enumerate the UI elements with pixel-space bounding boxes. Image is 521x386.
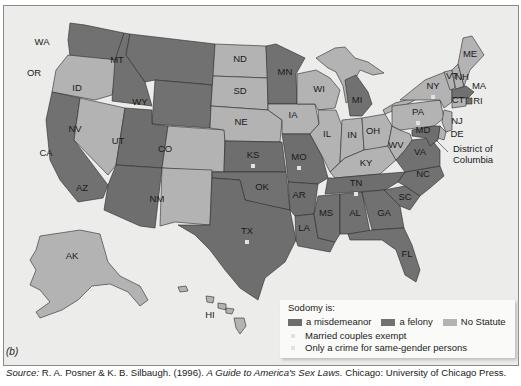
legend: Sodomy is: a misdemeanor a felony No Sta…	[280, 300, 515, 358]
figure-label: (b)	[6, 346, 18, 357]
state-label-AK: AK	[66, 250, 79, 261]
state-MS[interactable]	[314, 194, 340, 242]
state-label-IL: IL	[323, 128, 331, 139]
state-label-MI: MI	[352, 94, 363, 105]
married-exempt-marker-icon	[416, 121, 420, 125]
married-exempt-marker-icon	[431, 95, 435, 99]
state-label-DE: DE	[450, 128, 463, 139]
state-label-NE: NE	[234, 116, 247, 127]
legend-item-misdemeanor: a misdemeanor	[288, 316, 371, 327]
same-gender-only-marker-icon	[354, 192, 358, 196]
hawaii-island-big-island[interactable]	[234, 318, 246, 334]
legend-categories: a misdemeanor a felony No Statute	[288, 316, 506, 327]
state-label-TN: TN	[350, 177, 363, 188]
state-label-AZ: AZ	[76, 182, 88, 193]
state-OR[interactable]	[52, 55, 118, 100]
state-label-OR: OR	[27, 67, 41, 78]
legend-note-same-gender-label: Only a crime for same-gender persons	[305, 342, 467, 353]
state-label-UT: UT	[112, 135, 125, 146]
state-label-PA: PA	[412, 106, 425, 117]
legend-label-no-statute: No Statute	[461, 316, 506, 327]
state-label-MO: MO	[291, 151, 306, 162]
state-label-CA: CA	[39, 147, 53, 158]
state-label-IN: IN	[347, 129, 357, 140]
legend-note-married: Married couples exempt	[288, 330, 406, 341]
state-label-RI: RI	[473, 95, 483, 106]
same-gender-only-marker-icon	[245, 240, 249, 244]
state-label-MA: MA	[472, 80, 487, 91]
legend-note-same-gender: Only a crime for same-gender persons	[288, 342, 467, 353]
state-label-CT: CT	[452, 94, 465, 105]
state-label-IA: IA	[289, 109, 299, 120]
source-citation: Source: R. A. Posner & K. B. Silbaugh. (…	[6, 367, 506, 378]
state-NM[interactable]	[160, 168, 212, 226]
legend-note-married-label: Married couples exempt	[305, 330, 406, 341]
source-publisher: Chicago: University of Chicago Press.	[343, 367, 507, 378]
state-label-GA: GA	[377, 207, 391, 218]
source-authors: R. A. Posner & K. B. Silbaugh. (1996).	[39, 367, 206, 378]
state-label-MD: MD	[416, 124, 431, 135]
state-label-OH: OH	[366, 125, 380, 136]
state-label-MS: MS	[319, 207, 333, 218]
state-label-FL: FL	[401, 248, 412, 259]
legend-label-misdemeanor: a misdemeanor	[306, 316, 371, 327]
legend-item-felony: a felony	[381, 316, 432, 327]
hawaii-island-molokai	[218, 303, 226, 310]
misdemeanor-swatch	[288, 319, 302, 326]
state-label-AL: AL	[349, 207, 361, 218]
state-label-MN: MN	[278, 66, 293, 77]
state-label-MT: MT	[110, 54, 124, 65]
state-label-NC: NC	[416, 168, 430, 179]
state-label-WY: WY	[132, 96, 148, 107]
state-label-KS: KS	[247, 149, 260, 160]
legend-item-no-statute: No Statute	[443, 316, 506, 327]
state-label-CO: CO	[158, 143, 172, 154]
legend-label-felony: a felony	[399, 316, 432, 327]
state-label-WA: WA	[35, 36, 51, 47]
state-label-SC: SC	[398, 191, 411, 202]
source-prefix: Source:	[6, 367, 39, 378]
state-label-NY: NY	[426, 80, 440, 91]
same-gender-only-marker-icon	[297, 166, 301, 170]
dc-label-line2: Columbia	[453, 154, 493, 165]
felony-swatch	[381, 319, 395, 326]
state-label-ME: ME	[463, 48, 477, 59]
state-label-KY: KY	[360, 157, 373, 168]
state-AK[interactable]	[30, 230, 148, 318]
hawaii-island-maui	[226, 308, 234, 314]
legend-title: Sodomy is:	[288, 302, 335, 313]
state-label-WI: WI	[313, 83, 325, 94]
dc-label-line1: District of	[453, 143, 493, 154]
state-label-AR: AR	[292, 189, 305, 200]
same-gender-only-marker-icon	[251, 164, 255, 168]
state-label-VA: VA	[414, 146, 427, 157]
state-label-NH: NH	[455, 71, 469, 82]
source-title: A Guide to America's Sex Laws.	[207, 367, 343, 378]
hawaii-island-oahu	[206, 296, 214, 303]
state-label-WV: WV	[388, 139, 404, 150]
married-exempt-marker-icon	[291, 334, 295, 338]
no-statute-swatch	[443, 319, 457, 326]
hawaii-island-kauai	[178, 286, 188, 292]
state-label-NV: NV	[68, 123, 82, 134]
state-RI[interactable]	[466, 98, 472, 104]
state-label-ND: ND	[233, 53, 247, 64]
state-label-NM: NM	[150, 193, 165, 204]
state-label-LA: LA	[298, 222, 310, 233]
state-label-HI: HI	[205, 309, 215, 320]
same-gender-marker-icon	[291, 346, 295, 350]
state-label-SD: SD	[233, 85, 246, 96]
state-WY[interactable]	[152, 80, 212, 128]
state-label-OK: OK	[255, 181, 269, 192]
state-label-ID: ID	[72, 82, 82, 93]
dc-label: District of Columbia	[453, 143, 493, 165]
state-label-TX: TX	[241, 225, 254, 236]
state-label-NJ: NJ	[451, 115, 463, 126]
